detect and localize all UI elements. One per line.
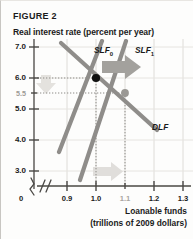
slf0-curve-label: SLF0 — [94, 45, 113, 57]
y-tick-label-6: 6.0 — [4, 73, 26, 82]
x-tick-label-0: 0 — [9, 194, 33, 203]
chart-plot-area: SLF0 SLF1 DLF — [1, 39, 193, 199]
initial-equilibrium-point — [92, 74, 100, 82]
quantity-rise-arrow-icon — [93, 162, 123, 181]
y-axis-title: Real interest rate (percent per year) — [13, 27, 154, 37]
slf1-curve-label: SLF1 — [135, 45, 154, 57]
y-tick-label-7: 7.0 — [4, 42, 26, 51]
new-equilibrium-point — [121, 89, 129, 97]
x-axis-title-line2: (trillions of 2009 dollars) — [90, 218, 187, 230]
x-tick-label-1-3: 1.3 — [171, 194, 193, 203]
chart-svg — [1, 39, 193, 199]
figure-container: FIGURE 2 Real interest rate (percent per… — [0, 0, 193, 239]
y-tick-label-3: 3.0 — [4, 166, 26, 175]
figure-number-label: FIGURE 2 — [13, 11, 57, 21]
y-tick-label-5: 5.0 — [4, 104, 26, 113]
x-tick-label-1-1: 1.1 — [113, 194, 137, 203]
y-tick-label-4: 4.0 — [4, 135, 26, 144]
dlf-curve-label: DLF — [152, 122, 168, 132]
x-axis-title-line1: Loanable funds — [90, 206, 187, 218]
x-tick-label-0-9: 0.9 — [55, 194, 79, 203]
y-tick-label-5-5: 5.5 — [4, 89, 26, 98]
x-tick-label-1-0: 1.0 — [84, 194, 108, 203]
x-axis-title: Loanable funds (trillions of 2009 dollar… — [90, 206, 187, 229]
x-tick-label-1-2: 1.2 — [142, 194, 166, 203]
